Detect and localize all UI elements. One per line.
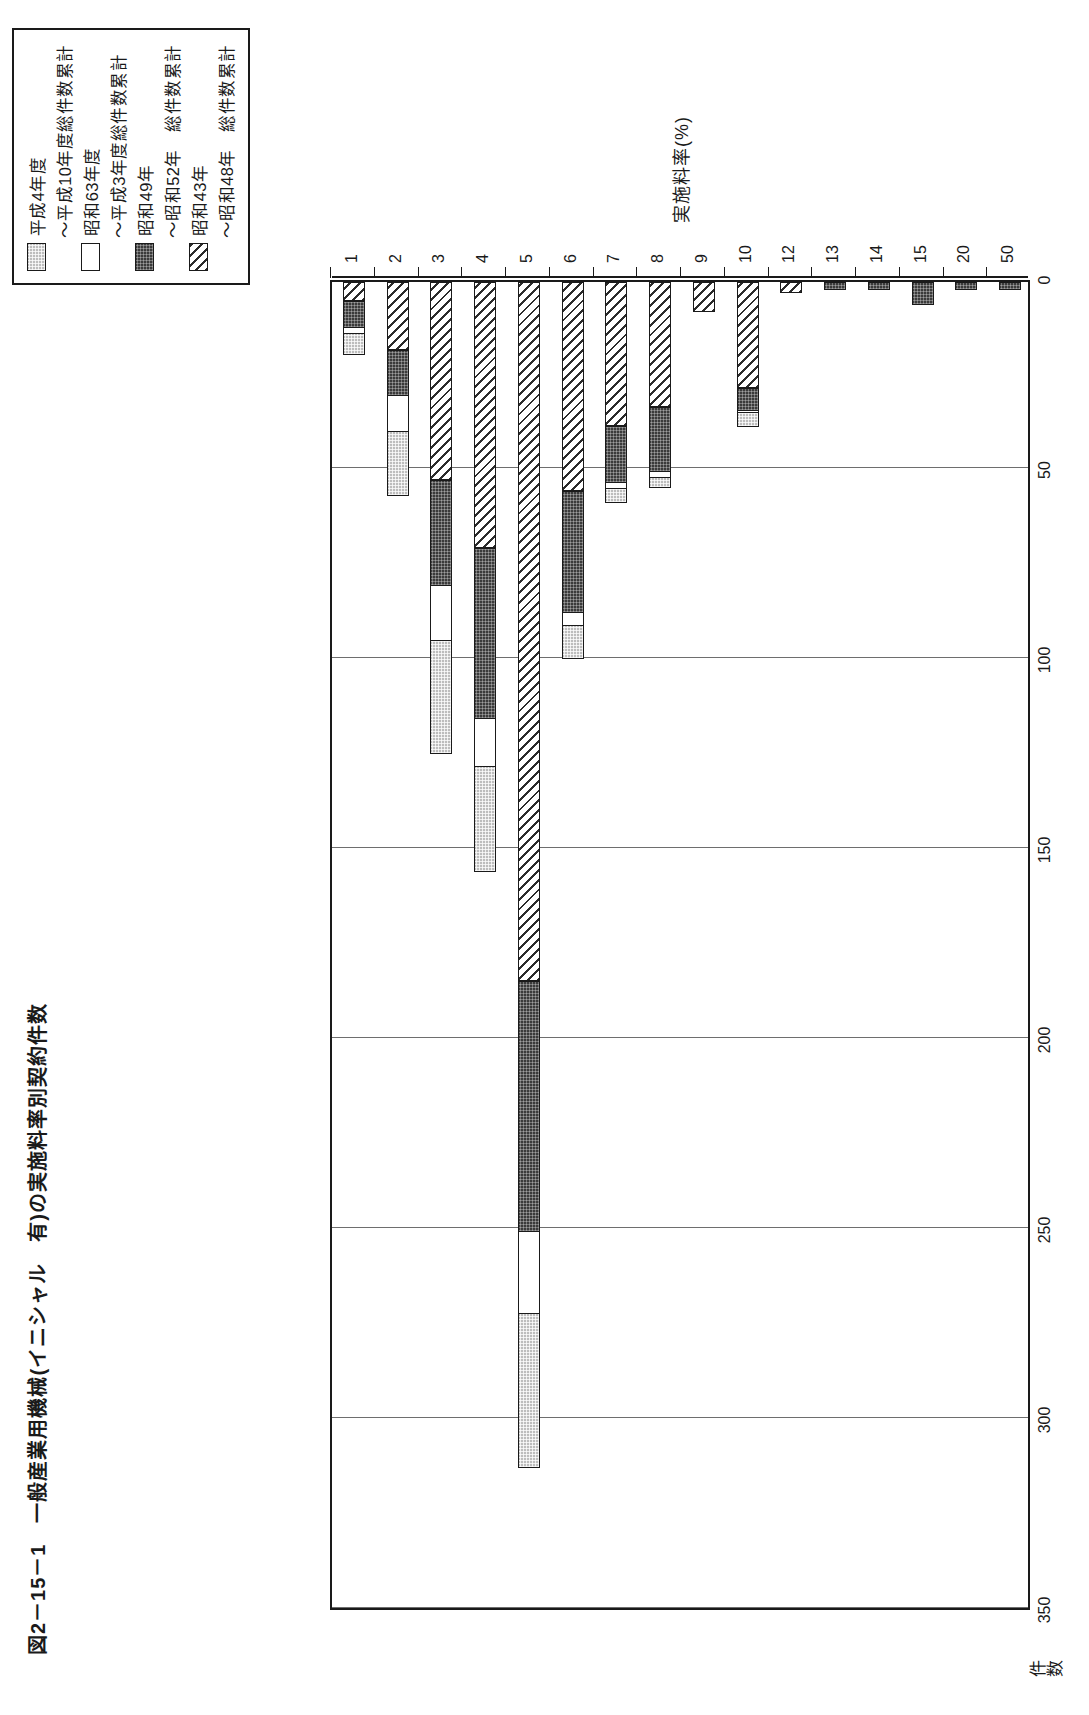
bar-segment-hatch — [430, 282, 452, 480]
legend-swatch-hatch — [189, 243, 208, 271]
legend-item: 昭和63年度 — [78, 44, 103, 271]
bar-segment-hatch — [693, 282, 715, 312]
bar-14 — [868, 282, 890, 290]
axis-tickmark — [505, 267, 506, 278]
bar-segment-light-grid — [737, 412, 759, 427]
legend-item-label: ～昭和52年 総件数累計 — [160, 44, 184, 238]
value-axis-label-char: 数 — [1047, 1660, 1064, 1677]
category-tick-label: 14 — [868, 245, 886, 263]
category-tick-label: 6 — [562, 254, 580, 263]
bar-segment-hatch — [518, 282, 540, 981]
bar-10 — [737, 282, 759, 430]
bar-segment-white — [518, 1230, 540, 1314]
bar-segment-hatch — [474, 282, 496, 548]
axis-tickmark — [768, 267, 769, 278]
axis-tickmark — [986, 267, 987, 278]
category-tick-label: 15 — [912, 245, 930, 263]
bar-4 — [474, 282, 496, 875]
bar-7 — [605, 282, 627, 506]
bar-9 — [693, 282, 715, 312]
category-tick-label: 12 — [780, 245, 798, 263]
bar-8 — [649, 282, 671, 491]
axis-tickmark — [943, 267, 944, 278]
value-axis-label-char: 件 — [1030, 1660, 1047, 1677]
axis-tickmark — [549, 267, 550, 278]
bar-segment-dark — [737, 388, 759, 411]
bar-13 — [824, 282, 846, 290]
bar-segment-light-grid — [430, 640, 452, 754]
category-tick-label: 13 — [824, 245, 842, 263]
value-axis-label: 件数 — [1030, 1660, 1064, 1677]
bar-segment-hatch — [562, 282, 584, 491]
legend-item: ～平成10年度総件数累計 — [51, 44, 76, 271]
axis-tickmark — [636, 267, 637, 278]
legend-item: ～昭和52年 総件数累計 — [159, 44, 184, 271]
gridline — [332, 847, 1028, 848]
legend-item: 昭和49年 — [132, 44, 157, 271]
bar-segment-white — [474, 718, 496, 767]
bar-segment-hatch — [649, 282, 671, 407]
bar-segment-hatch — [737, 282, 759, 388]
axis-tickmark — [724, 267, 725, 278]
value-tick-label: 350 — [1036, 1597, 1054, 1624]
bar-segment-white — [562, 611, 584, 626]
category-axis-label: 実施料率(%) — [330, 116, 1030, 223]
bar-segment-dark — [562, 491, 584, 613]
page-title: 図2－15－1 一般産業用機械(イニシャル 有)の実施料率別契約件数 — [22, 1003, 51, 1655]
legend-item-label: ～平成10年度総件数累計 — [52, 44, 76, 238]
legend-item-label: 昭和63年度 — [79, 147, 103, 236]
bar-segment-light-grid — [562, 625, 584, 659]
axis-tickmark — [461, 267, 462, 278]
category-tick-label: 3 — [430, 254, 448, 263]
value-tick-label: 150 — [1036, 837, 1054, 864]
category-tick-label: 10 — [737, 245, 755, 263]
axis-tickmark — [593, 267, 594, 278]
bar-15 — [912, 282, 934, 305]
axis-tickmark — [855, 267, 856, 278]
bar-segment-white — [430, 584, 452, 641]
legend-item-label: ～平成3年度総件数累計 — [106, 54, 130, 239]
legend-item-label: 平成4年度 — [25, 157, 49, 237]
gridline — [332, 1037, 1028, 1038]
bar-segment-hatch — [605, 282, 627, 426]
bar-3 — [430, 282, 452, 757]
category-tick-label: 9 — [693, 254, 711, 263]
bar-segment-dark — [430, 480, 452, 586]
bar-segment-light-grid — [387, 431, 409, 496]
bar-segment-light-grid — [649, 477, 671, 488]
bar-segment-dark — [387, 350, 409, 396]
gridline — [332, 1417, 1028, 1418]
bar-6 — [562, 282, 584, 662]
bar-segment-hatch — [387, 282, 409, 350]
bar-segment-hatch — [780, 282, 802, 293]
value-tick-label: 250 — [1036, 1217, 1054, 1244]
bar-segment-dark — [518, 981, 540, 1232]
bar-1 — [343, 282, 365, 358]
bar-segment-dark — [999, 282, 1021, 290]
legend-item: ～昭和48年 総件数累計 — [213, 44, 238, 271]
legend-item: ～平成3年度総件数累計 — [105, 44, 130, 271]
figure-stage: 図2－15－1 一般産業用機械(イニシャル 有)の実施料率別契約件数 平成4年度… — [0, 0, 1089, 1715]
category-tick-label: 1 — [343, 254, 361, 263]
value-tick-label: 200 — [1036, 1027, 1054, 1054]
legend-item: 平成4年度 — [24, 44, 49, 271]
bar-segment-dark — [912, 282, 934, 305]
axis-tickmark — [680, 267, 681, 278]
category-tick-label: 4 — [474, 254, 492, 263]
bar-segment-white — [387, 394, 409, 432]
axis-tickmark — [899, 267, 900, 278]
legend-swatch-dark — [135, 243, 154, 271]
value-tick-label: 100 — [1036, 647, 1054, 674]
axis-tickmark — [374, 267, 375, 278]
bar-50 — [999, 282, 1021, 290]
category-tick-label: 20 — [955, 245, 973, 263]
bar-segment-dark — [868, 282, 890, 290]
bar-segment-light-grid — [605, 488, 627, 503]
category-tick-label: 8 — [649, 254, 667, 263]
value-tick-label: 50 — [1036, 461, 1054, 479]
bar-segment-light-grid — [518, 1313, 540, 1469]
bar-segment-dark — [605, 426, 627, 483]
bar-segment-dark — [955, 282, 977, 290]
bar-segment-dark — [343, 301, 365, 328]
category-tick-label: 5 — [518, 254, 536, 263]
